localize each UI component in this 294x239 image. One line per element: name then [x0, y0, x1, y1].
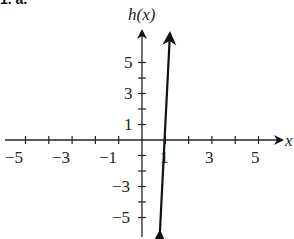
x-axis-title: x: [284, 131, 293, 150]
y-tick-label: −3: [112, 177, 130, 196]
x-tick-label: 3: [205, 148, 214, 167]
x-tick-label: 5: [251, 148, 260, 167]
chart: −5 −3 −1 1 3 5 5 3 1 −3 −5 h(x) x: [0, 0, 294, 239]
x-tick-label: −3: [52, 148, 70, 167]
x-tick-label: −5: [5, 148, 23, 167]
x-tick-label: −1: [99, 148, 117, 167]
y-tick-label: 5: [124, 53, 133, 72]
y-axis-title: h(x): [128, 5, 156, 24]
y-tick-label: −5: [112, 208, 130, 227]
y-tick-label: 3: [124, 84, 133, 103]
y-tick-label: 1: [124, 115, 133, 134]
function-line-h: [160, 33, 170, 231]
